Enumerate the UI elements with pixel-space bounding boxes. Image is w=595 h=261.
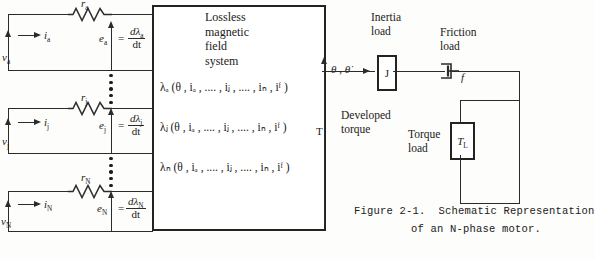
theta-label: θ , θ̇ bbox=[331, 64, 350, 75]
phase-a-emf-label: ea bbox=[99, 33, 107, 44]
torque-load-top-wire bbox=[460, 100, 461, 123]
developed-torque-label: Developed torque bbox=[341, 108, 391, 136]
title-line-1: Lossless bbox=[205, 10, 249, 25]
phase-j-bottom-wire bbox=[8, 153, 153, 154]
phase-j-equals-sign: = bbox=[118, 120, 124, 131]
phase-j-current-label: ij bbox=[44, 117, 49, 128]
phase-a-emf-arrowhead bbox=[108, 21, 114, 28]
title-line-4: system bbox=[205, 54, 249, 69]
phase-a-emf-arrow-shaft bbox=[111, 27, 112, 70]
friction-load-line-1: Friction bbox=[440, 25, 476, 39]
phase-j-emf-arrowhead bbox=[108, 108, 114, 115]
phase-N-top-wire-right bbox=[110, 191, 153, 192]
torque-load-line-2: load bbox=[408, 141, 440, 155]
phase-a-fraction-numerator: dλa bbox=[128, 26, 145, 39]
inertia-load-label: Inertia load bbox=[371, 10, 401, 38]
resistor-a-label: ra bbox=[81, 0, 89, 9]
phase-a-equals-sign: = bbox=[118, 33, 124, 44]
phase-a-current-arrowhead bbox=[34, 32, 41, 38]
phase-a-derivative-fraction: dλa dt bbox=[128, 26, 145, 50]
phase-j-fraction-denominator: dt bbox=[128, 126, 144, 138]
torque-symbol-label: T bbox=[316, 126, 323, 137]
inertia-load-line-2: load bbox=[371, 24, 401, 38]
phase-a-fraction-denominator: dt bbox=[128, 39, 145, 51]
phase-N-equals-sign: = bbox=[118, 203, 124, 214]
inertia-symbol-label: J bbox=[385, 67, 389, 79]
phase-N-voltage-label: vN bbox=[1, 216, 11, 227]
phase-a-bottom-wire bbox=[8, 70, 153, 71]
outer-loop-right-wire bbox=[519, 71, 520, 204]
phase-N-fraction-numerator: dλN bbox=[126, 196, 146, 209]
friction-symbol-label: f bbox=[461, 72, 464, 83]
phase-N-emf-arrowhead bbox=[108, 191, 114, 198]
resistor-N-label: rN bbox=[81, 172, 91, 183]
inertia-load-box: J bbox=[377, 55, 397, 91]
developed-torque-line-1: Developed bbox=[341, 108, 391, 122]
developed-torque-line-2: torque bbox=[341, 122, 391, 136]
flux-equation-a: λₐ (θ , iₐ , .... , iⱼ , .... , iₙ , iᶠ … bbox=[160, 82, 288, 94]
phase-N-emf-label: eN bbox=[97, 203, 107, 214]
flux-equation-N: λₙ (θ , iₐ , .... , iⱼ , .... , iₙ , iᶠ … bbox=[160, 162, 290, 174]
torque-load-label: Torque load bbox=[408, 127, 440, 155]
phase-j-top-wire-right bbox=[110, 108, 153, 109]
phase-N-emf-arrow-shaft bbox=[111, 197, 112, 231]
phase-a-top-wire-left bbox=[8, 14, 70, 15]
torque-load-bottom-wire bbox=[460, 155, 461, 204]
friction-load-line-2: load bbox=[440, 39, 476, 53]
main-block-title: Lossless magnetic field system bbox=[205, 10, 249, 69]
torque-load-top-branch bbox=[460, 100, 520, 101]
phase-j-derivative-fraction: dλj dt bbox=[128, 113, 144, 137]
torque-load-box: TL bbox=[450, 122, 475, 160]
resistor-j-label: rj bbox=[81, 92, 87, 103]
phase-a-top-wire-right bbox=[110, 14, 153, 15]
torque-load-line-1: Torque bbox=[408, 127, 440, 141]
figure-caption-line-2: of an N-phase motor. bbox=[411, 221, 541, 237]
phase-j-emf-arrow-shaft bbox=[111, 114, 112, 153]
developed-torque-line bbox=[324, 62, 325, 227]
friction-load-label: Friction load bbox=[440, 25, 476, 53]
inertia-load-line-1: Inertia bbox=[371, 10, 401, 24]
phase-a-current-label: ia bbox=[44, 30, 50, 41]
flux-equation-j: λⱼ (θ , iₐ , .... , iⱼ , .... , iₙ , iᶠ … bbox=[160, 122, 287, 134]
phase-N-current-arrowhead bbox=[34, 201, 41, 207]
shaft-wire-to-friction bbox=[393, 71, 445, 72]
title-line-2: magnetic bbox=[205, 25, 249, 40]
phase-j-fraction-numerator: dλj bbox=[128, 113, 144, 126]
figure-caption-line-1: Figure 2-1. Schematic Representation bbox=[354, 203, 595, 219]
resistor-j bbox=[68, 100, 112, 117]
phase-j-top-wire-left bbox=[8, 108, 70, 109]
torque-load-symbol-label: TL bbox=[457, 135, 468, 147]
phase-j-voltage-label: vj bbox=[2, 136, 9, 147]
phase-N-derivative-fraction: dλN dt bbox=[126, 196, 146, 220]
phase-a-voltage-label: va bbox=[2, 52, 10, 63]
phase-N-fraction-denominator: dt bbox=[126, 209, 146, 221]
phase-N-top-wire-left bbox=[8, 191, 70, 192]
developed-torque-arrowhead bbox=[321, 57, 327, 64]
phase-N-bottom-wire bbox=[8, 231, 153, 232]
phase-j-emf-label: ej bbox=[99, 120, 106, 131]
resistor-a bbox=[68, 6, 112, 23]
friction-to-loop-wire bbox=[452, 71, 520, 72]
phase-j-current-arrowhead bbox=[34, 119, 41, 125]
phase-N-current-label: iN bbox=[44, 199, 52, 210]
shaft-wire-to-inertia bbox=[322, 71, 375, 72]
title-line-3: field bbox=[205, 39, 249, 54]
